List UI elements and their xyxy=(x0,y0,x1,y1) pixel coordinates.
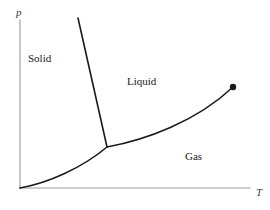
region-label-liquid: Liquid xyxy=(127,75,157,87)
vaporization-curve xyxy=(107,87,233,147)
region-label-solid: Solid xyxy=(28,52,52,64)
pressure-axis-label: p xyxy=(15,6,22,18)
phase-diagram-canvas: p T Solid Liquid Gas xyxy=(0,0,270,210)
region-label-gas: Gas xyxy=(185,150,202,162)
critical-point-marker xyxy=(230,84,236,90)
phase-diagram-figure: p T Solid Liquid Gas xyxy=(0,0,270,210)
temperature-axis-label: T xyxy=(256,186,263,198)
fusion-curve xyxy=(78,18,107,147)
sublimation-curve xyxy=(20,147,107,188)
